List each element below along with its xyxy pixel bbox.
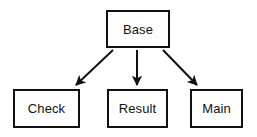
edge-base-to-main	[163, 50, 197, 85]
node-check-label: Check	[28, 102, 65, 115]
node-check[interactable]: Check	[13, 89, 80, 128]
node-base[interactable]: Base	[106, 10, 170, 48]
node-main[interactable]: Main	[190, 89, 243, 128]
node-result-label: Result	[119, 102, 156, 115]
node-base-label: Base	[123, 23, 153, 36]
edge-base-to-check	[76, 50, 113, 85]
node-main-label: Main	[202, 102, 231, 115]
node-result[interactable]: Result	[107, 89, 168, 128]
diagram-canvas: Base Check Result Main	[0, 0, 257, 137]
